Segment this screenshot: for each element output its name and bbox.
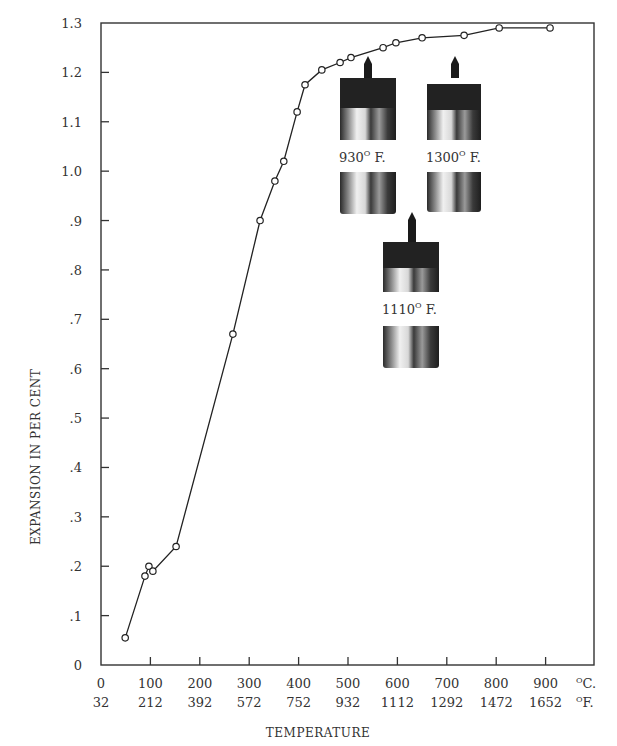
specimen-photo-1110f: 1110O F. — [380, 212, 442, 368]
y-tick-label: .1 — [70, 609, 82, 624]
fahrenheit-unit-label: OF. — [576, 695, 594, 710]
y-tick-label: 1.1 — [61, 115, 82, 130]
data-point-marker — [150, 568, 156, 574]
y-tick-label: .4 — [70, 460, 82, 475]
data-point-marker — [272, 178, 278, 184]
y-tick-label: 0 — [74, 658, 82, 673]
data-point-marker — [348, 54, 354, 60]
data-point-marker — [230, 331, 236, 337]
photo-label-930f: 930O F. — [339, 149, 386, 165]
y-tick-label: 1.2 — [61, 65, 82, 80]
x-tick-label-fahrenheit: 1472 — [480, 695, 513, 710]
y-tick-label: .6 — [70, 362, 82, 377]
specimen-photo-930f: 930O F. — [336, 56, 400, 214]
x-tick-label-celsius: 100 — [138, 676, 163, 691]
x-tick-label-celsius: 400 — [286, 676, 311, 691]
y-tick-label: .3 — [70, 510, 82, 525]
x-tick-label-celsius: 700 — [434, 676, 459, 691]
data-point-marker — [319, 67, 325, 73]
photo-label-1300f: 1300O F. — [426, 149, 481, 165]
y-tick-label: .9 — [70, 214, 82, 229]
data-point-marker — [547, 25, 553, 31]
x-tick-label-fahrenheit: 392 — [187, 695, 212, 710]
x-tick-label-celsius: 600 — [385, 676, 410, 691]
x-tick-label-fahrenheit: 572 — [237, 695, 262, 710]
data-point-marker — [393, 40, 399, 46]
y-tick-label: .7 — [70, 312, 82, 327]
celsius-unit-label: OC. — [576, 676, 596, 691]
x-tick-label-celsius: 900 — [533, 676, 558, 691]
x-tick-label-celsius: 500 — [336, 676, 361, 691]
data-point-marker — [281, 158, 287, 164]
x-axis-title: TEMPERATURE — [266, 726, 370, 740]
y-tick-label: 1.0 — [61, 164, 82, 179]
data-point-marker — [302, 82, 308, 88]
y-axis-title: EXPANSION IN PER CENT — [29, 369, 43, 545]
y-tick-label: 1.3 — [61, 16, 82, 31]
x-tick-label-fahrenheit: 752 — [286, 695, 311, 710]
data-point-marker — [257, 217, 263, 223]
specimen-photo-1300f: 1300O F. — [424, 56, 486, 212]
x-tick-label-fahrenheit: 212 — [138, 695, 163, 710]
expansion-chart: 0.1.2.3.4.5.6.7.8.91.01.11.21.3 03210021… — [0, 0, 617, 746]
y-tick-label: .2 — [70, 559, 82, 574]
x-tick-label-fahrenheit: 32 — [93, 695, 110, 710]
x-tick-label-celsius: 800 — [484, 676, 509, 691]
y-axis: 0.1.2.3.4.5.6.7.8.91.01.11.21.3 — [61, 16, 109, 673]
x-tick-label-fahrenheit: 1292 — [430, 695, 463, 710]
data-point-marker — [142, 573, 148, 579]
data-point-marker — [496, 25, 502, 31]
x-tick-label-fahrenheit: 1652 — [529, 695, 562, 710]
x-tick-label-celsius: 0 — [97, 676, 105, 691]
x-tick-label-celsius: 200 — [187, 676, 212, 691]
data-point-marker — [122, 635, 128, 641]
y-tick-label: .8 — [70, 263, 82, 278]
x-tick-label-fahrenheit: 932 — [336, 695, 361, 710]
data-point-marker — [294, 109, 300, 115]
data-point-marker — [461, 32, 467, 38]
y-tick-label: .5 — [70, 411, 82, 426]
data-point-marker — [419, 35, 425, 41]
x-tick-label-celsius: 300 — [237, 676, 262, 691]
data-point-marker — [173, 543, 179, 549]
data-point-marker — [380, 44, 386, 50]
data-point-marker — [337, 59, 343, 65]
expansion-line — [125, 28, 550, 638]
data-points — [122, 25, 553, 641]
x-tick-label-fahrenheit: 1112 — [381, 695, 414, 710]
photo-label-1110f: 1110O F. — [382, 301, 437, 317]
